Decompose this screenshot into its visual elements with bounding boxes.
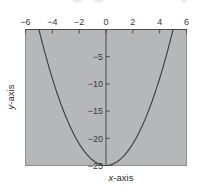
y-tick-label: −5	[93, 52, 103, 62]
x-tick-label: 6	[184, 17, 189, 27]
y-axis-title-rest: -axis	[5, 84, 16, 104]
top-edge-artifacts	[73, 0, 187, 3]
x-tick-label: −2	[74, 17, 84, 27]
x-tick-label: −4	[47, 17, 57, 27]
x-tick-label: −6	[20, 17, 30, 27]
x-tick-label: 4	[157, 17, 162, 27]
y-tick-label: −15	[88, 106, 103, 116]
y-axis-title: y-axis	[5, 84, 16, 110]
x-tick-label: 2	[130, 17, 135, 27]
x-tick-label: 0	[103, 17, 108, 27]
parabola-chart: −6 −4 −2 0 2 4 6 −5 −10 −	[0, 0, 200, 191]
x-axis-tick-labels: −6 −4 −2 0 2 4 6	[20, 17, 189, 27]
x-axis-title: x-axis	[108, 172, 134, 183]
y-tick-label: −20	[88, 134, 103, 144]
chart-figure: −6 −4 −2 0 2 4 6 −5 −10 −	[0, 0, 200, 191]
x-axis-title-rest: -axis	[113, 172, 133, 183]
y-tick-label: −10	[88, 79, 103, 89]
